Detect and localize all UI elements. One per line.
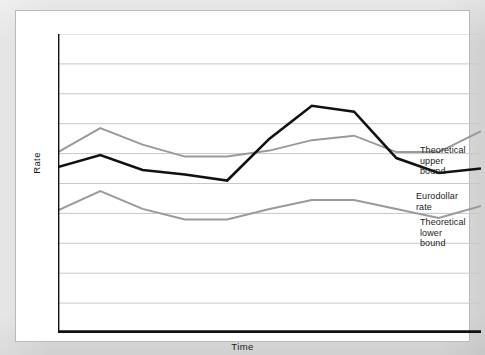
page-canvas: Rate Theoretical upper bound Eurodollar … [0, 0, 485, 355]
series-line-eurodollar-rate [58, 106, 481, 181]
y-axis-label: Rate [31, 133, 42, 193]
series-line-theoretical-upper-bound [58, 128, 481, 156]
x-axis-label: Time [16, 341, 469, 352]
series-label-upper-bound: Theoretical upper bound [420, 145, 469, 177]
gridlines [58, 34, 481, 303]
plot-area [58, 34, 481, 333]
figure-card: Rate Theoretical upper bound Eurodollar … [15, 10, 470, 342]
series-label-lower-bound: Theoretical lower bound [420, 217, 469, 249]
series-label-eurodollar-rate: Eurodollar rate [416, 191, 469, 212]
chart-svg [58, 34, 481, 333]
